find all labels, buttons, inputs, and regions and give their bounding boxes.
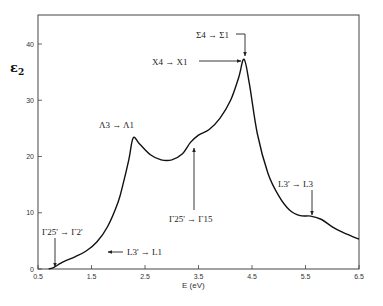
arrow-sigma bbox=[236, 34, 245, 56]
epsilon2-spectrum-chart: 010203040 0.51.52.53.54.55.56.5 ε2 E (eV… bbox=[0, 0, 383, 306]
y-tick-label: 0 bbox=[30, 266, 34, 273]
annotation-gamma25-gamma2: Γ25' → Γ2' bbox=[42, 227, 83, 237]
annotation-L3-L1: L3' → L1 bbox=[127, 247, 162, 257]
x-axis-label: E (eV) bbox=[182, 281, 205, 290]
x-tick-label: 5.5 bbox=[301, 273, 311, 280]
epsilon2-curve bbox=[49, 59, 359, 269]
x-tick-label: 1.5 bbox=[87, 273, 97, 280]
annotation-sigma4-sigma1: Σ4 → Σ1 bbox=[196, 30, 229, 40]
x-tick-label: 3.5 bbox=[194, 273, 204, 280]
x-tick-label: 4.5 bbox=[247, 273, 257, 280]
y-tick-label: 20 bbox=[26, 153, 34, 160]
annotation-X4-X1: X4 → X1 bbox=[152, 57, 188, 67]
x-tick-label: 2.5 bbox=[140, 273, 150, 280]
y-tick-label: 10 bbox=[26, 209, 34, 216]
y-tick-label: 30 bbox=[26, 97, 34, 104]
annotations: Γ25' → Γ2' L3' → L1 Λ3 → Λ1 Γ25' → Γ15 X… bbox=[42, 30, 314, 267]
y-axis-label: ε2 bbox=[10, 60, 24, 77]
x-tick-label: 0.5 bbox=[33, 273, 43, 280]
annotation-gamma25-gamma15: Γ25' → Γ15 bbox=[169, 214, 213, 224]
annotation-lambda3-lambda1: Λ3 → Λ1 bbox=[99, 120, 134, 130]
y-axis-ticks: 010203040 bbox=[26, 41, 42, 273]
y-tick-label: 40 bbox=[26, 41, 34, 48]
x-tick-label: 6.5 bbox=[354, 273, 364, 280]
x-axis-ticks: 0.51.52.53.54.55.56.5 bbox=[33, 265, 364, 280]
plot-frame bbox=[38, 15, 359, 269]
annotation-L3-L3: L3' → L3 bbox=[278, 179, 314, 189]
